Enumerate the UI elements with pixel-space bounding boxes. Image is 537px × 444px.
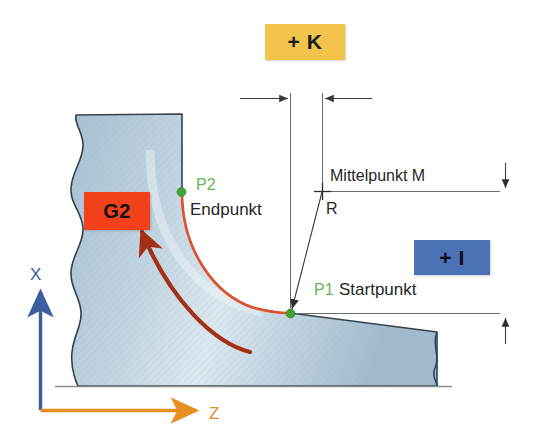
p1-startpoint-marker	[286, 309, 295, 318]
center-point-label: Mittelpunkt M	[330, 167, 425, 185]
p1-tag-label: P1	[314, 281, 334, 299]
p1-name-label: Startpunkt	[339, 280, 417, 300]
axis-z-label: Z	[209, 404, 219, 424]
p2-name-label: Endpunkt	[190, 200, 262, 220]
badge-plus-i[interactable]: + I	[414, 240, 490, 275]
radius-label: R	[326, 200, 338, 218]
workpiece	[71, 114, 437, 386]
badge-g2-label: G2	[103, 200, 131, 223]
badge-g2[interactable]: G2	[84, 192, 150, 230]
p2-tag-label: P2	[196, 176, 216, 194]
badge-plus-k[interactable]: + K	[265, 24, 345, 60]
diagram-canvas: + K + I G2 Mittelpunkt M R P2 Endpunkt P…	[0, 0, 537, 444]
center-point-marker	[314, 183, 331, 200]
axis-x-label: X	[30, 265, 41, 285]
p2-endpoint-marker	[177, 188, 186, 197]
badge-plus-k-label: + K	[288, 30, 323, 54]
badge-plus-i-label: + I	[439, 246, 464, 270]
technical-drawing	[0, 0, 537, 444]
